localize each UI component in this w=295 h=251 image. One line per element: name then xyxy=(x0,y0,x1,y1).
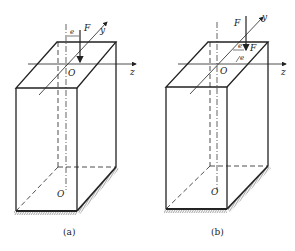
label-z-b: z xyxy=(280,67,286,77)
label-force-top-b: F xyxy=(233,18,241,28)
diagram-canvas: F e y z O O (a) F F e e y z O O (b) xyxy=(0,0,295,251)
caption-a: (a) xyxy=(63,227,75,237)
label-y-b: y xyxy=(261,12,268,22)
label-y-a: y xyxy=(99,25,106,35)
label-ez-b: e xyxy=(238,42,242,50)
label-origin-bottom-b: O xyxy=(211,187,219,197)
label-force-point-b: F xyxy=(249,43,257,53)
caption-b: (b) xyxy=(211,227,224,237)
label-e-a: e xyxy=(70,28,74,36)
y-axis xyxy=(190,17,263,94)
label-z-a: z xyxy=(129,67,135,77)
figure-b xyxy=(164,16,286,213)
figure-a xyxy=(14,22,136,215)
label-force-a: F xyxy=(83,23,91,33)
label-origin-bottom-a: O xyxy=(57,189,65,199)
label-ey-b: e xyxy=(240,54,244,62)
label-origin-top-b: O xyxy=(220,66,228,76)
label-origin-top-a: O xyxy=(68,68,76,78)
